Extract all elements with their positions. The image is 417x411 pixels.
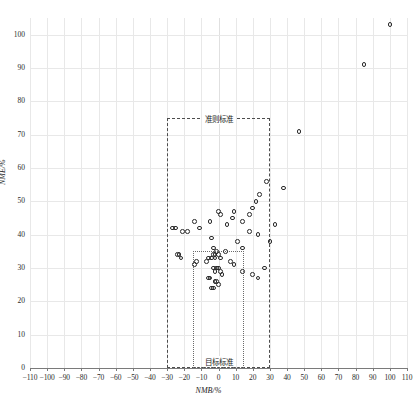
data-point xyxy=(211,266,216,271)
x-tick-mark xyxy=(150,368,151,371)
y-tick-label: 10 xyxy=(0,330,25,339)
gridline-vertical xyxy=(116,18,117,368)
gridline-vertical xyxy=(338,18,339,368)
gridline-vertical xyxy=(150,18,151,368)
x-tick-mark xyxy=(253,368,254,371)
x-tick-mark xyxy=(133,368,134,371)
data-point xyxy=(216,209,221,214)
data-point xyxy=(216,282,221,287)
x-tick-mark xyxy=(47,368,48,371)
gridline-vertical xyxy=(390,18,391,368)
scatter-chart: 准则标准目标标准 −110−100−90−80−70−60−50−40−30−2… xyxy=(0,0,417,411)
x-tick-mark xyxy=(184,368,185,371)
data-point xyxy=(256,232,261,237)
y-tick-label: 80 xyxy=(0,96,25,105)
data-point xyxy=(240,219,245,224)
data-point xyxy=(192,262,197,267)
gridline-vertical xyxy=(373,18,374,368)
data-point xyxy=(211,286,216,291)
y-tick-label: 0 xyxy=(0,363,25,372)
x-tick-mark xyxy=(167,368,168,371)
y-tick-label: 30 xyxy=(0,263,25,272)
data-point xyxy=(240,246,245,251)
data-point xyxy=(247,229,252,234)
gridline-horizontal xyxy=(30,35,407,36)
data-point xyxy=(388,22,393,27)
data-point xyxy=(204,259,209,264)
gridline-vertical xyxy=(287,18,288,368)
data-point xyxy=(192,219,197,224)
y-tick-label: 70 xyxy=(0,130,25,139)
x-axis-title: NMB/% xyxy=(0,386,417,395)
x-tick-mark xyxy=(338,368,339,371)
data-point xyxy=(281,186,286,191)
gridline-vertical xyxy=(99,18,100,368)
gridline-vertical xyxy=(321,18,322,368)
data-point xyxy=(185,229,190,234)
data-point xyxy=(208,219,213,224)
y-tick-label: 90 xyxy=(0,63,25,72)
data-point xyxy=(223,249,228,254)
y-tick-label: 40 xyxy=(0,230,25,239)
data-point xyxy=(297,129,302,134)
data-point xyxy=(232,262,237,267)
gridline-vertical xyxy=(407,18,408,368)
y-tick-label: 20 xyxy=(0,296,25,305)
x-tick-label: 110 xyxy=(394,373,417,382)
x-tick-mark xyxy=(287,368,288,371)
data-point xyxy=(240,269,245,274)
data-point xyxy=(170,226,175,231)
data-point xyxy=(247,212,252,217)
y-tick-label: 100 xyxy=(0,30,25,39)
data-point xyxy=(268,239,273,244)
data-point xyxy=(250,272,255,277)
x-tick-mark xyxy=(304,368,305,371)
y-axis-title: NME/% xyxy=(0,159,7,185)
gridline-horizontal xyxy=(30,68,407,69)
data-point xyxy=(273,222,278,227)
y-tick-label: 50 xyxy=(0,196,25,205)
data-point xyxy=(218,256,223,261)
data-point xyxy=(206,276,211,281)
x-tick-mark xyxy=(270,368,271,371)
gridline-vertical xyxy=(356,18,357,368)
data-point xyxy=(235,239,240,244)
data-point xyxy=(264,179,269,184)
x-tick-mark xyxy=(390,368,391,371)
gridline-vertical xyxy=(47,18,48,368)
data-point xyxy=(232,209,237,214)
data-point xyxy=(180,229,185,234)
x-tick-mark xyxy=(407,368,408,371)
data-point xyxy=(220,272,225,277)
x-tick-mark xyxy=(236,368,237,371)
gridline-vertical xyxy=(270,18,271,368)
x-tick-mark xyxy=(201,368,202,371)
x-tick-mark xyxy=(99,368,100,371)
x-tick-mark xyxy=(30,368,31,371)
x-tick-mark xyxy=(321,368,322,371)
x-tick-mark xyxy=(81,368,82,371)
gridline-vertical xyxy=(64,18,65,368)
x-tick-mark xyxy=(373,368,374,371)
x-tick-mark xyxy=(116,368,117,371)
box-label-criterion-standard: 准则标准 xyxy=(202,113,236,124)
gridline-vertical xyxy=(133,18,134,368)
x-tick-mark xyxy=(64,368,65,371)
gridline-horizontal xyxy=(30,101,407,102)
x-tick-mark xyxy=(356,368,357,371)
data-point xyxy=(257,192,262,197)
x-tick-mark xyxy=(219,368,220,371)
gridline-vertical xyxy=(81,18,82,368)
box-label-goal-standard: 目标标准 xyxy=(202,356,236,367)
data-point xyxy=(362,62,367,67)
data-point xyxy=(230,216,235,221)
gridline-vertical xyxy=(304,18,305,368)
plot-area: 准则标准目标标准 xyxy=(30,18,407,368)
gridline-vertical xyxy=(30,18,31,368)
